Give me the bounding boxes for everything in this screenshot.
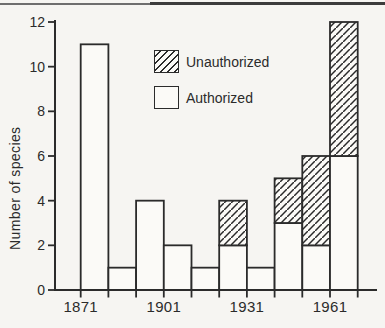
bar-authorized-1881	[108, 268, 136, 290]
bar-authorized-1901	[164, 245, 192, 290]
hatched-swatch-icon	[154, 50, 179, 73]
legend-item-authorized: Authorized	[154, 86, 269, 109]
bar-unauthorized-1951	[302, 156, 330, 245]
open-swatch-icon	[154, 86, 179, 109]
y-tick-label-0: 0	[37, 282, 45, 298]
bar-unauthorized-1961	[330, 22, 358, 156]
x-tick-label-1901: 1901	[147, 298, 182, 315]
y-tick-label-6: 6	[37, 148, 45, 164]
y-tick-label-4: 4	[37, 193, 45, 209]
y-tick-label-10: 10	[29, 59, 45, 75]
y-tick-label-2: 2	[37, 237, 45, 253]
legend-label-unauthorized: Unauthorized	[186, 54, 269, 70]
y-tick-label-12: 12	[29, 14, 45, 30]
bar-authorized-1891	[136, 201, 164, 290]
y-tick-label-8: 8	[37, 103, 45, 119]
bar-authorized-1951	[302, 245, 330, 290]
figure: 0246810121871190119311961 Number of spec…	[0, 0, 385, 328]
bar-unauthorized-1921	[219, 201, 247, 246]
bar-unauthorized-1941	[275, 178, 303, 223]
legend-item-unauthorized: Unauthorized	[154, 50, 269, 73]
x-tick-label-1931: 1931	[230, 298, 265, 315]
bar-authorized-1871	[81, 44, 109, 290]
bar-authorized-1931	[247, 268, 275, 290]
bar-authorized-1961	[330, 156, 358, 290]
y-axis-title: Number of species	[7, 130, 25, 250]
x-tick-label-1871: 1871	[63, 298, 98, 315]
bar-authorized-1911	[192, 268, 220, 290]
bar-authorized-1941	[275, 223, 303, 290]
legend-label-authorized: Authorized	[186, 90, 253, 106]
x-tick-label-1961: 1961	[313, 298, 348, 315]
legend: Unauthorized Authorized	[154, 50, 269, 122]
bar-authorized-1921	[219, 245, 247, 290]
